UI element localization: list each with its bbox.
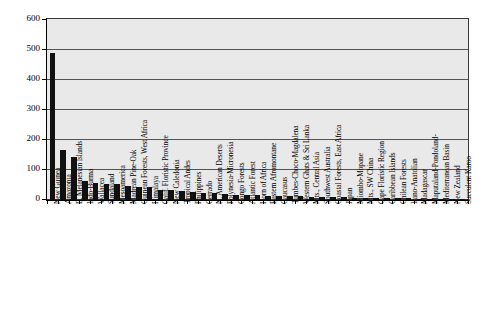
x-tick-label: Horn of Africa bbox=[260, 162, 268, 204]
y-tick-mark bbox=[42, 139, 46, 140]
x-tick-label: Calif. Floristic Province bbox=[162, 135, 170, 204]
x-tick-label: Wallacea bbox=[98, 178, 106, 204]
x-tick-label: Irano-Anatolian bbox=[411, 158, 419, 204]
y-tick-mark bbox=[42, 49, 46, 50]
y-tick-label: 300 bbox=[6, 104, 40, 113]
x-tick-label: Cerrado bbox=[206, 181, 214, 204]
x-tick-label: Coastal Forests, East Africa bbox=[335, 125, 343, 204]
x-tick-label: Himalaya bbox=[152, 176, 160, 204]
y-tick-label: 0 bbox=[6, 194, 40, 203]
x-tick-label: Mts., SW China bbox=[367, 158, 375, 204]
x-tick-label: Madrean Pine-Oak bbox=[130, 150, 138, 204]
x-tick-label: Mesoamerica bbox=[119, 165, 127, 204]
x-tick-label: Western Ghats & Sri Lanka bbox=[303, 125, 311, 204]
x-tick-label: Tumbes-Choco-Magdalena bbox=[292, 126, 300, 204]
y-tick-label: 500 bbox=[6, 44, 40, 53]
x-tick-label: New Guinea bbox=[54, 168, 62, 204]
x-tick-label: Maputaland-Pondoland- bbox=[432, 134, 440, 204]
x-tick-label: New Caledonia bbox=[173, 160, 181, 204]
x-tick-label: Polynesia-Micronesia bbox=[227, 142, 235, 204]
y-tick-mark bbox=[42, 19, 46, 20]
x-tick-label: E. Melanesian Islands bbox=[76, 141, 84, 204]
bar-chart: 6005004003002001000 New GuineaAmazoniaE.… bbox=[0, 0, 486, 329]
x-tick-label: Guinean Forests, West Africa bbox=[141, 120, 149, 204]
x-tick-label: Sundaland bbox=[108, 174, 116, 204]
y-tick-label: 200 bbox=[6, 134, 40, 143]
x-tick-label: New Zealand bbox=[454, 165, 462, 204]
x-tick-label: Amazonia bbox=[65, 174, 73, 204]
y-tick-label: 400 bbox=[6, 74, 40, 83]
y-tick-mark bbox=[42, 109, 46, 110]
x-tick-label: N. American Deserts bbox=[216, 144, 224, 204]
x-tick-label: Indo-Burma bbox=[87, 169, 95, 204]
x-tick-label: Tropical Andes bbox=[184, 160, 192, 204]
x-tick-label: Caucasus bbox=[281, 177, 289, 204]
x-tick-label: Succulent Karoo bbox=[465, 156, 473, 204]
x-tick-label: Eastern Afromontane bbox=[270, 143, 278, 204]
y-tick-label: 100 bbox=[6, 164, 40, 173]
x-tick-label: Miombo-Mopane bbox=[357, 153, 365, 204]
x-tick-label: Caribbean Islands bbox=[389, 153, 397, 204]
y-tick-mark bbox=[42, 169, 46, 170]
x-tick-label: Mediterranean Basin bbox=[443, 144, 451, 204]
x-tick-label: Mts., Central Asia bbox=[313, 152, 321, 204]
x-tick-label: Atlantic Forest bbox=[249, 161, 257, 204]
y-tick-mark bbox=[42, 199, 46, 200]
x-tick-label: Madagascar bbox=[421, 169, 429, 204]
y-tick-mark bbox=[42, 79, 46, 80]
x-tick-label: Southwest Australia bbox=[324, 147, 332, 204]
x-axis-labels: New GuineaAmazoniaE. Melanesian IslandsI… bbox=[46, 204, 469, 328]
y-tick-label: 600 bbox=[6, 14, 40, 23]
x-tick-label: Congo Forests bbox=[238, 162, 246, 204]
x-tick-label: Chilean Forests bbox=[400, 159, 408, 204]
x-tick-label: Philippines bbox=[195, 172, 203, 204]
x-tick-label: Cape Floristic Region bbox=[378, 141, 386, 204]
x-tick-label: Japan bbox=[346, 188, 354, 204]
